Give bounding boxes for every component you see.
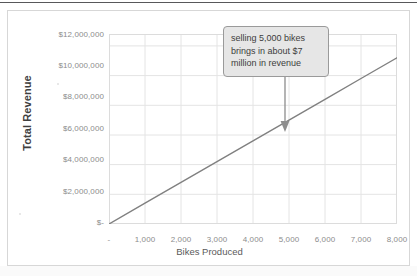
y-tick-label: $4,000,000 (14, 155, 104, 164)
y-tick-label: $8,000,000 (14, 92, 104, 101)
annotation-callout-text: selling 5,000 bikes brings in about $7 m… (231, 32, 322, 70)
y-tick-label: $12,000,000 (14, 30, 104, 39)
y-tick-label: $6,000,000 (14, 124, 104, 133)
y-tick-label: $10,000,000 (14, 61, 104, 70)
x-axis-title: Bikes Produced (8, 246, 411, 257)
y-tick-label: $- (14, 218, 104, 227)
callout-arrow-icon (274, 74, 296, 136)
page-top-rule (0, 2, 417, 3)
page-bottom-margin (0, 266, 417, 276)
page-root: Total Revenue $12,000,000 $10,000,000 $8… (0, 0, 417, 276)
x-tick-label: 8,000 (375, 235, 417, 244)
y-tick-label: $2,000,000 (14, 187, 104, 196)
annotation-callout[interactable]: selling 5,000 bikes brings in about $7 m… (223, 26, 329, 77)
scan-speckle (19, 213, 21, 215)
scan-speckle (57, 83, 59, 85)
revenue-line-chart[interactable]: Total Revenue $12,000,000 $10,000,000 $8… (7, 10, 410, 266)
